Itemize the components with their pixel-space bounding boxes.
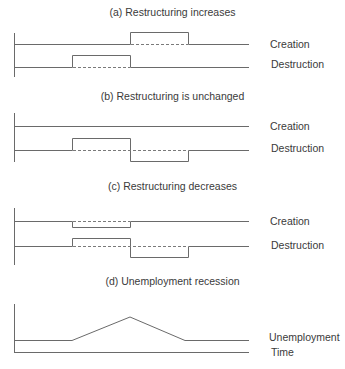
panel-c-destruction-label: Destruction <box>271 239 324 251</box>
panel-d-time-label: Time <box>271 346 294 358</box>
panel-c-title: (c) Restructuring decreases <box>0 180 345 192</box>
panel-d-graphic <box>14 304 249 353</box>
panel-a-creation-line <box>14 33 249 45</box>
panel-d-title: (d) Unemployment recession <box>0 275 345 287</box>
panel-c-destruction-line <box>14 239 249 258</box>
panel-d-unemployment-label: Unemployment <box>269 331 340 343</box>
panel-a-creation-label: Creation <box>270 38 310 50</box>
panel-c-graphic <box>14 208 249 265</box>
panel-a-title: (a) Restructuring increases <box>0 6 345 18</box>
panel-b-title: (b) Restructuring is unchanged <box>0 90 345 102</box>
panel-a-graphic <box>14 33 249 78</box>
panel-b-creation-label: Creation <box>270 120 310 132</box>
panel-a-destruction-label: Destruction <box>271 58 324 70</box>
panel-b-destruction-label: Destruction <box>271 142 324 154</box>
panel-b-graphic <box>14 113 249 162</box>
panel-c-creation-line <box>14 222 249 228</box>
panel-b-destruction-line <box>14 139 249 162</box>
panel-d-unemployment-line <box>14 317 249 341</box>
panel-c-creation-label: Creation <box>270 215 310 227</box>
panel-a-destruction-line <box>14 56 249 68</box>
